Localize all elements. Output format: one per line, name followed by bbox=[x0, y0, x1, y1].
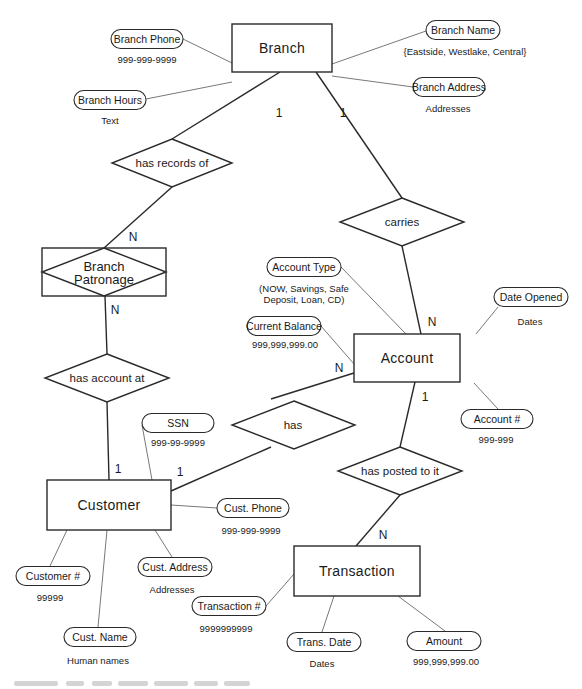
line-current-balance bbox=[321, 326, 354, 364]
attr-label-branch-address: Branch Address bbox=[412, 81, 486, 93]
attribute-branch-address[interactable]: Branch Address Addresses bbox=[412, 78, 486, 114]
line-trans-date bbox=[322, 596, 334, 632]
cardinality-account-carries: N bbox=[428, 315, 437, 329]
cardinality-branch-records: 1 bbox=[276, 106, 283, 120]
attr-label-current-balance: Current Balance bbox=[246, 320, 322, 332]
line-account-has-posted bbox=[400, 382, 415, 447]
label-has: has bbox=[284, 419, 303, 431]
entity-branch[interactable]: Branch bbox=[232, 24, 332, 72]
cardinality-patronage-records: N bbox=[129, 230, 138, 244]
attribute-cust-phone[interactable]: Cust. Phone 999-999-9999 bbox=[217, 499, 289, 536]
entity-label-customer: Customer bbox=[77, 497, 140, 513]
attr-label-customer-number: Customer # bbox=[26, 570, 80, 582]
line-has-account-at-customer bbox=[107, 402, 109, 480]
attr-label-date-opened: Date Opened bbox=[500, 291, 563, 303]
domain-amount: 999,999,999.00 bbox=[413, 656, 479, 667]
attr-label-transaction-number: Transaction # bbox=[197, 600, 260, 612]
attribute-cust-address[interactable]: Cust. Address Addresses bbox=[138, 558, 212, 595]
domain-customer-number: 99999 bbox=[37, 592, 63, 603]
attribute-cust-name[interactable]: Cust. Name Human names bbox=[64, 628, 136, 666]
attr-label-amount: Amount bbox=[426, 635, 462, 647]
line-account-type bbox=[341, 267, 406, 334]
line-has-records-of-patronage bbox=[104, 187, 172, 248]
attribute-current-balance[interactable]: Current Balance 999,999,999.00 bbox=[246, 317, 322, 350]
label-has-posted-to-it: has posted to it bbox=[361, 465, 440, 477]
entity-label-account: Account bbox=[381, 350, 434, 366]
domain-branch-address: Addresses bbox=[426, 103, 471, 114]
line-account-number bbox=[474, 383, 498, 409]
er-diagram: Branch Account Customer Transaction Bran… bbox=[0, 0, 582, 689]
attr-label-branch-name: Branch Name bbox=[431, 24, 495, 36]
label-has-records-of: has records of bbox=[136, 157, 210, 169]
line-account-has bbox=[271, 373, 354, 399]
attribute-amount[interactable]: Amount 999,999,999.00 bbox=[407, 632, 481, 667]
line-amount bbox=[398, 596, 445, 631]
domain-current-balance: 999,999,999.00 bbox=[252, 339, 318, 350]
line-branch-address bbox=[332, 76, 413, 87]
cardinality-branch-carries: 1 bbox=[340, 106, 347, 120]
attr-label-cust-address: Cust. Address bbox=[142, 561, 207, 573]
attr-label-cust-name: Cust. Name bbox=[72, 631, 128, 643]
line-customer-number bbox=[50, 530, 67, 566]
domain-branch-name: {Eastside, Westlake, Central} bbox=[404, 46, 527, 57]
line-branch-has-records-of bbox=[172, 72, 280, 139]
domain-account-type-line2: Deposit, Loan, CD) bbox=[264, 294, 345, 305]
line-carries-account bbox=[402, 246, 421, 334]
attr-label-ssn: SSN bbox=[167, 417, 189, 429]
attr-label-branch-hours: Branch Hours bbox=[78, 94, 142, 106]
relationship-has-posted-to-it[interactable]: has posted to it bbox=[338, 447, 462, 495]
cardinality-account-posted: 1 bbox=[422, 390, 429, 404]
attr-label-account-type: Account Type bbox=[272, 261, 336, 273]
entity-account[interactable]: Account bbox=[354, 334, 460, 382]
line-date-opened bbox=[476, 307, 498, 334]
domain-date-opened: Dates bbox=[518, 316, 543, 327]
attribute-branch-hours[interactable]: Branch Hours Text bbox=[74, 91, 146, 126]
attribute-transaction-number[interactable]: Transaction # 9999999999 bbox=[192, 597, 266, 634]
line-cust-phone bbox=[171, 505, 217, 508]
attribute-branch-name[interactable]: Branch Name {Eastside, Westlake, Central… bbox=[404, 21, 527, 57]
domain-ssn: 999-99-9999 bbox=[151, 437, 205, 448]
attribute-trans-date[interactable]: Trans. Date Dates bbox=[287, 633, 361, 669]
line-transaction-number bbox=[266, 574, 294, 606]
patronage-label-line2: Patronage bbox=[74, 272, 134, 287]
line-branch-carries bbox=[316, 72, 402, 198]
relationship-has[interactable]: has bbox=[232, 401, 355, 449]
attribute-ssn[interactable]: SSN 999-99-9999 bbox=[142, 414, 214, 448]
domain-cust-address: Addresses bbox=[150, 584, 195, 595]
attribute-account-number[interactable]: Account # 999-999 bbox=[461, 410, 533, 445]
blurred-caption bbox=[14, 681, 250, 686]
line-branch-phone bbox=[183, 39, 232, 63]
relationship-carries[interactable]: carries bbox=[340, 198, 464, 246]
relationship-has-records-of[interactable]: has records of bbox=[112, 139, 232, 187]
cardinality-transaction-posted: N bbox=[379, 528, 388, 542]
attribute-account-type[interactable]: Account Type (NOW, Savings, Safe Deposit… bbox=[259, 258, 349, 305]
entity-label-branch: Branch bbox=[259, 40, 305, 56]
attribute-date-opened[interactable]: Date Opened Dates bbox=[494, 288, 568, 327]
domain-trans-date: Dates bbox=[310, 658, 335, 669]
attribute-branch-phone[interactable]: Branch Phone 999-999-9999 bbox=[111, 30, 183, 65]
attr-label-cust-phone: Cust. Phone bbox=[224, 502, 282, 514]
domain-account-number: 999-999 bbox=[479, 434, 514, 445]
line-branch-hours bbox=[146, 82, 232, 99]
domain-branch-hours: Text bbox=[101, 115, 119, 126]
domain-branch-phone: 999-999-9999 bbox=[117, 54, 176, 65]
relationship-has-account-at[interactable]: has account at bbox=[45, 354, 169, 402]
label-carries: carries bbox=[385, 216, 420, 228]
entity-customer[interactable]: Customer bbox=[47, 480, 171, 530]
label-has-account-at: has account at bbox=[70, 372, 146, 384]
weak-relationship-branch-patronage[interactable]: Branch Patronage bbox=[42, 248, 166, 296]
domain-cust-phone: 999-999-9999 bbox=[221, 525, 280, 536]
attr-label-branch-phone: Branch Phone bbox=[114, 33, 181, 45]
domain-cust-name: Human names bbox=[67, 655, 129, 666]
line-cust-name bbox=[98, 530, 107, 627]
line-has-customer bbox=[171, 447, 271, 491]
cardinality-customer-account-at: 1 bbox=[115, 462, 122, 476]
line-cust-address bbox=[155, 530, 172, 557]
attr-label-trans-date: Trans. Date bbox=[297, 636, 352, 648]
domain-transaction-number: 9999999999 bbox=[200, 623, 253, 634]
entity-label-transaction: Transaction bbox=[319, 563, 395, 579]
line-patronage-has-account-at bbox=[105, 296, 107, 354]
entity-transaction[interactable]: Transaction bbox=[294, 546, 420, 596]
cardinality-patronage-account-at: N bbox=[111, 303, 120, 317]
attribute-customer-number[interactable]: Customer # 99999 bbox=[16, 567, 90, 603]
